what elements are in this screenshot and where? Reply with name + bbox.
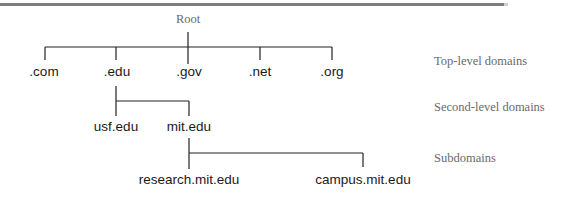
node-campus-mit-edu: campus.mit.edu — [315, 172, 410, 187]
node-mit-edu: mit.edu — [167, 119, 211, 134]
node-research-mit-edu: research.mit.edu — [139, 172, 240, 187]
node-org: .org — [320, 64, 343, 79]
root-node: Root — [176, 12, 200, 27]
node-edu: .edu — [104, 64, 130, 79]
level-label-top-level: Top-level domains — [434, 54, 527, 69]
node-gov: .gov — [176, 64, 202, 79]
node-usf-edu: usf.edu — [94, 119, 138, 134]
tree-connectors — [0, 0, 574, 197]
level-label-second-level: Second-level domains — [434, 100, 545, 115]
level-label-subdomains: Subdomains — [434, 151, 496, 166]
node-com: .com — [29, 64, 58, 79]
node-net: .net — [249, 64, 272, 79]
